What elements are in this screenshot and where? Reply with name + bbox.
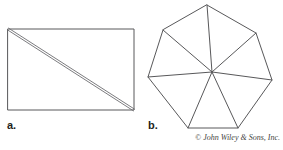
heptagon-triangulation-spokes [148, 5, 272, 128]
heptagon-spoke-2 [212, 33, 256, 72]
rectangle-diagonal-line-lower [9, 28, 135, 109]
heptagon-spoke-4 [212, 72, 238, 128]
heptagon-spoke-7 [163, 30, 212, 72]
heptagon-spoke-3 [212, 72, 272, 80]
panel-b-heptagon-group [148, 5, 272, 128]
rectangle-outline [8, 29, 134, 110]
panel-label-b: b. [148, 120, 158, 131]
figure-container: a. b. © John Wiley & Sons, Inc. [0, 0, 283, 150]
heptagon-spoke-1 [207, 5, 212, 72]
heptagon-outline [148, 5, 272, 128]
copyright-credit: © John Wiley & Sons, Inc. [195, 134, 280, 142]
heptagon-spoke-5 [188, 72, 212, 128]
panel-a-rectangle-group [7, 28, 134, 111]
rectangle-diagonal-line-upper [7, 30, 133, 111]
heptagon-spoke-6 [148, 72, 212, 77]
geometry-figure-svg [0, 0, 283, 150]
panel-label-a: a. [7, 120, 16, 131]
